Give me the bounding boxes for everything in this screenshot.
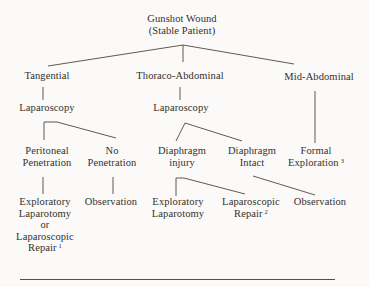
observation-left-label: Observation bbox=[85, 196, 137, 208]
peritoneal-line-1: Peritoneal bbox=[23, 145, 72, 157]
node-laparoscopy-left: Laparoscopy bbox=[19, 102, 74, 114]
tangential-label: Tangential bbox=[24, 70, 69, 82]
laparoscopic-repair-line-2: Repair2 bbox=[222, 208, 280, 220]
laparoscopic-repair-line-1: Laparoscopic bbox=[222, 196, 280, 208]
observation-right-label: Observation bbox=[294, 196, 346, 208]
connector-root-mid-abdominal bbox=[183, 45, 294, 64]
exp-or-lap-line-2: Laparotomy bbox=[16, 208, 74, 220]
exp-or-lap-line-3: or bbox=[16, 219, 74, 231]
diaphragm-intact-line-1: Diaphragm bbox=[228, 145, 276, 157]
connector-injury-laparotomy-repair bbox=[176, 178, 245, 196]
node-formal-exploration: Formal Exploration3 bbox=[288, 145, 344, 168]
footnote-marker-3: 3 bbox=[341, 157, 344, 164]
connector-laparoscopy-injury-intact bbox=[176, 123, 242, 141]
footnote-marker-1: 1 bbox=[59, 242, 62, 249]
root-line-2: (Stable Patient) bbox=[147, 25, 216, 37]
no-penetration-line-1: No bbox=[88, 145, 137, 157]
exploratory-laparotomy-line-1: Exploratory bbox=[152, 196, 204, 208]
laparoscopy-mid-label: Laparoscopy bbox=[153, 102, 208, 114]
node-diaphragm-injury: Diaphragm injury bbox=[158, 145, 206, 168]
node-diaphragm-intact: Diaphragm Intact bbox=[228, 145, 276, 168]
diaphragm-injury-line-2: injury bbox=[158, 157, 206, 169]
mid-abdominal-label: Mid-Abdominal bbox=[284, 71, 354, 83]
exp-or-lap-repair-text: Repair bbox=[28, 242, 57, 253]
node-observation-left: Observation bbox=[85, 196, 137, 208]
footnote-marker-2: 2 bbox=[265, 208, 268, 215]
node-exploratory-or-laparoscopic: Exploratory Laparotomy or Laparoscopic R… bbox=[16, 196, 74, 254]
flowchart-page: Gunshot Wound (Stable Patient) Tangentia… bbox=[0, 0, 369, 287]
connector-laparoscopy-peritoneal-nopenetration bbox=[44, 122, 116, 140]
exp-or-lap-line-1: Exploratory bbox=[16, 196, 74, 208]
formal-exploration-text: Exploration bbox=[288, 157, 339, 168]
node-root: Gunshot Wound (Stable Patient) bbox=[147, 13, 216, 36]
node-tangential: Tangential bbox=[24, 70, 69, 82]
node-exploratory-laparotomy: Exploratory Laparotomy bbox=[152, 196, 204, 219]
laparoscopic-repair-text: Repair bbox=[234, 208, 263, 219]
connector-intact-observation bbox=[253, 176, 315, 195]
node-no-penetration: No Penetration bbox=[88, 145, 137, 168]
connector-root-tangential bbox=[48, 45, 183, 66]
thoraco-abdominal-label: Thoraco-Abdominal bbox=[136, 70, 223, 82]
exp-or-lap-line-5: Repair1 bbox=[16, 242, 74, 254]
laparoscopy-left-label: Laparoscopy bbox=[19, 102, 74, 114]
formal-exploration-line-1: Formal bbox=[288, 145, 344, 157]
exploratory-laparotomy-line-2: Laparotomy bbox=[152, 208, 204, 220]
node-peritoneal-penetration: Peritoneal Penetration bbox=[23, 145, 72, 168]
no-penetration-line-2: Penetration bbox=[88, 157, 137, 169]
node-laparoscopy-mid: Laparoscopy bbox=[153, 102, 208, 114]
formal-exploration-line-2: Exploration3 bbox=[288, 157, 344, 169]
node-observation-right: Observation bbox=[294, 196, 346, 208]
node-laparoscopic-repair: Laparoscopic Repair2 bbox=[222, 196, 280, 219]
node-mid-abdominal: Mid-Abdominal bbox=[284, 71, 354, 83]
exp-or-lap-line-4: Laparoscopic bbox=[16, 231, 74, 243]
root-line-1: Gunshot Wound bbox=[147, 13, 216, 25]
peritoneal-line-2: Penetration bbox=[23, 157, 72, 169]
node-thoraco-abdominal: Thoraco-Abdominal bbox=[136, 70, 223, 82]
diaphragm-injury-line-1: Diaphragm bbox=[158, 145, 206, 157]
diaphragm-intact-line-2: Intact bbox=[228, 157, 276, 169]
